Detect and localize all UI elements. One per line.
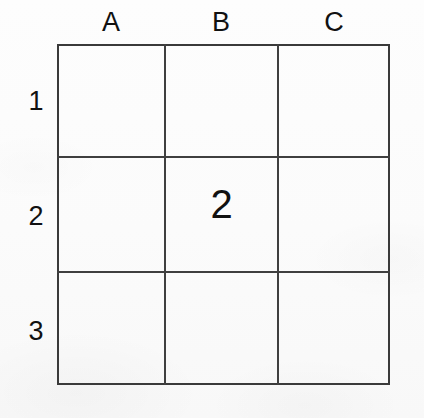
- cell-b2-value: 2: [166, 184, 277, 224]
- cell-b1[interactable]: [166, 44, 277, 156]
- row-header-1: 1: [16, 86, 56, 116]
- cell-c1[interactable]: [279, 44, 390, 156]
- column-header-c: C: [304, 6, 364, 38]
- column-header-b: B: [191, 6, 251, 38]
- row-header-2: 2: [16, 201, 56, 231]
- cell-a3[interactable]: [57, 273, 164, 385]
- cell-c2[interactable]: [279, 158, 390, 271]
- cell-a1[interactable]: [57, 44, 164, 156]
- cell-b3[interactable]: [166, 273, 277, 385]
- cell-b2[interactable]: 2: [166, 158, 277, 271]
- row-header-3: 3: [16, 316, 56, 346]
- cell-a2[interactable]: [57, 158, 164, 271]
- cell-c3[interactable]: [279, 273, 390, 385]
- column-header-a: A: [81, 6, 141, 38]
- grid: 2: [57, 44, 390, 385]
